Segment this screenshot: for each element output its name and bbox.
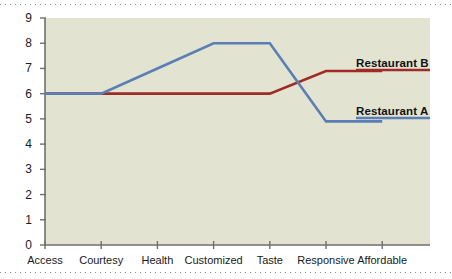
y-axis-tick-label: 0 (14, 239, 32, 251)
y-axis-tick-label: 5 (14, 113, 32, 125)
x-axis-tick-label: Affordable (342, 254, 422, 266)
y-axis-tick-label: 4 (14, 138, 32, 150)
y-axis-tick-label: 9 (14, 12, 32, 24)
y-axis-tick-label: 2 (14, 189, 32, 201)
series-label-restaurant-b: Restaurant B (356, 57, 429, 69)
y-axis-tick-label: 1 (14, 214, 32, 226)
y-axis-tick-label: 7 (14, 62, 32, 74)
plot-background (45, 18, 430, 245)
y-axis-tick-label: 3 (14, 163, 32, 175)
y-axis-tick-label: 8 (14, 37, 32, 49)
y-axis-tick-label: 6 (14, 88, 32, 100)
plot-canvas (0, 0, 452, 279)
line-chart-figure: 0123456789 AccessCourtesyHealthCustomize… (0, 0, 452, 279)
series-label-restaurant-a: Restaurant A (356, 105, 428, 117)
